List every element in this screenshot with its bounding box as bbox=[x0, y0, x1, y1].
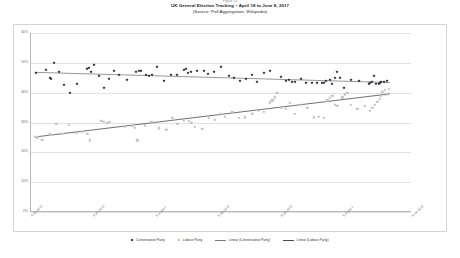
y-axis-tick-label: 0% bbox=[13, 210, 28, 213]
line-marker bbox=[283, 240, 294, 241]
trendline-layer bbox=[30, 33, 411, 212]
legend-label: Linear (Conservative Party) bbox=[229, 238, 270, 242]
line-marker bbox=[215, 240, 226, 241]
plot-area bbox=[30, 33, 411, 212]
legend-label: Linear (Labour Party) bbox=[297, 238, 329, 242]
chart-title: UK General Election Tracking – April 18 … bbox=[0, 3, 460, 8]
legend-item[interactable]: Linear (Labour Party) bbox=[283, 238, 329, 242]
y-axis-tick-label: 50% bbox=[13, 61, 28, 64]
chart-subtitle: (Source: Poll Aggregation, Wikipedia) bbox=[0, 9, 460, 14]
chart-legend: Conservative PartyLabour PartyLinear (Co… bbox=[13, 234, 447, 246]
y-axis-tick-label: 20% bbox=[13, 150, 28, 153]
y-axis-tick-label: 40% bbox=[13, 91, 28, 94]
legend-label: Conservative Party bbox=[136, 238, 165, 242]
y-axis-tick-label: 30% bbox=[13, 121, 28, 124]
diamond-marker bbox=[131, 238, 134, 241]
y-axis-tick-label: 10% bbox=[13, 180, 28, 183]
legend-item[interactable]: Linear (Conservative Party) bbox=[215, 238, 270, 242]
figure-root: Figure 10 UK General Election Tracking –… bbox=[0, 0, 460, 258]
trendline bbox=[36, 94, 390, 137]
legend-item[interactable]: Labour Party bbox=[178, 238, 203, 242]
trendline bbox=[36, 72, 390, 82]
plot-box bbox=[30, 33, 411, 212]
legend-item[interactable]: Conservative Party bbox=[131, 238, 164, 242]
legend-label: Labour Party bbox=[183, 238, 202, 242]
y-axis-tick-label: 60% bbox=[13, 31, 28, 34]
square-marker bbox=[178, 239, 181, 242]
